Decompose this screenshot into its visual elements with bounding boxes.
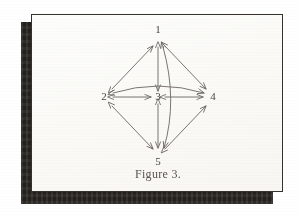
node-label-5: 5 (153, 156, 163, 167)
node-label-2: 2 (99, 91, 109, 102)
edge-1-5-curved (163, 47, 171, 148)
edge-2-1 (112, 46, 153, 89)
edge-2-5 (112, 106, 153, 149)
node-label-3: 3 (153, 91, 163, 102)
edge-1-4 (165, 46, 206, 89)
node-label-1: 1 (153, 24, 163, 35)
edge-5-4 (165, 106, 206, 149)
node-label-4: 4 (208, 91, 218, 102)
scanned-page: 1 2 3 4 5 Figure 3. (31, 14, 283, 192)
figure-screenshot: 1 2 3 4 5 Figure 3. (0, 0, 299, 215)
figure-caption: Figure 3. (32, 167, 284, 182)
figure-area: 1 2 3 4 5 Figure 3. (32, 15, 284, 193)
